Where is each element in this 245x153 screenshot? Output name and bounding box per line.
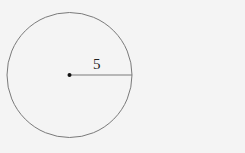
radius-label: 5	[93, 56, 101, 72]
circle-diagram: 5	[0, 0, 245, 153]
center-point	[68, 73, 72, 77]
